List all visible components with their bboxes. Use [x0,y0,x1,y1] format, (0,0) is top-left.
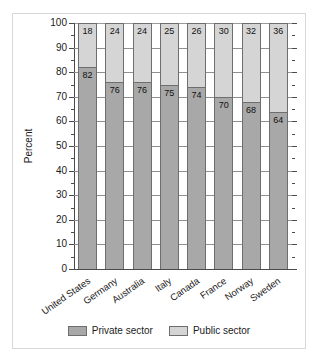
x-tick-label-cell: Norway [238,271,265,331]
bar-group[interactable]: 2476 [101,23,128,269]
y-tick-label: 10 [56,239,67,249]
y-tick-label: 90 [56,43,67,53]
legend-item-private-sector[interactable]: Private sector [68,326,153,336]
bar-value-label-public-sector: 32 [243,27,260,36]
x-tick-label-cell: Canada [183,271,210,331]
x-axis-labels: United StatesGermanyAustraliaItalyCanada… [74,271,292,331]
bar-value-label-private-sector: 76 [134,86,151,95]
y-tick-label: 20 [56,215,67,225]
bar-value-label-public-sector: 18 [79,27,96,36]
bar-group[interactable]: 1882 [74,23,101,269]
y-tick-major-right [292,48,297,49]
bar-segment-private-sector[interactable]: 82 [78,67,97,269]
bar-group[interactable]: 2476 [129,23,156,269]
bar-value-label-public-sector: 30 [215,27,232,36]
bar-segment-public-sector[interactable]: 25 [160,23,179,85]
y-tick-minor-right [292,232,295,233]
legend-label: Public sector [193,326,250,336]
plot-area: 0102030405060708090100 18822476247625752… [74,23,292,269]
bar-stack: 3664 [269,23,288,269]
bar-segment-private-sector[interactable]: 64 [269,112,288,269]
y-tick-label: 100 [50,18,67,28]
y-tick-major-right [292,244,297,245]
bar-segment-private-sector[interactable]: 74 [187,87,206,269]
y-tick-minor-right [292,183,295,184]
bar-value-label-public-sector: 25 [161,27,178,36]
bar-segment-public-sector[interactable]: 32 [242,23,261,102]
legend-swatch-icon [169,326,188,336]
bar-group[interactable]: 2575 [156,23,183,269]
bar-value-label-private-sector: 68 [243,106,260,115]
y-tick-minor-right [292,208,295,209]
y-tick-minor-right [292,85,295,86]
bar-value-label-public-sector: 24 [106,27,123,36]
x-tick-label-cell: Australia [129,271,156,331]
y-tick-major-right [292,121,297,122]
bar-segment-private-sector[interactable]: 76 [105,82,124,269]
bar-segment-private-sector[interactable]: 75 [160,85,179,270]
bar-value-label-public-sector: 36 [270,27,287,36]
bar-stack: 1882 [78,23,97,269]
y-tick-label: 40 [56,166,67,176]
bars-layer: 18822476247625752674307032683664 [74,23,292,269]
bar-stack: 3268 [242,23,261,269]
legend-label: Private sector [92,326,153,336]
x-tick-label-cell: France [210,271,237,331]
bar-group[interactable]: 2674 [183,23,210,269]
y-tick-major-right [292,171,297,172]
y-tick-label: 60 [56,116,67,126]
y-tick-major-right [292,23,297,24]
y-tick-minor-right [292,35,295,36]
bar-segment-public-sector[interactable]: 24 [105,23,124,82]
y-tick-major-right [292,146,297,147]
x-tick-label-cell: Sweden [265,271,292,331]
legend-item-public-sector[interactable]: Public sector [169,326,250,336]
bar-stack: 3070 [214,23,233,269]
bar-value-label-private-sector: 82 [79,71,96,80]
y-tick-label: 80 [56,67,67,77]
bar-stack: 2476 [133,23,152,269]
bar-segment-private-sector[interactable]: 76 [133,82,152,269]
bar-stack: 2575 [160,23,179,269]
bar-stack: 2674 [187,23,206,269]
y-tick-major-right [292,195,297,196]
y-tick-minor-right [292,109,295,110]
bar-value-label-private-sector: 74 [188,91,205,100]
y-tick-major-right [292,97,297,98]
legend-swatch-icon [68,326,87,336]
bar-segment-public-sector[interactable]: 36 [269,23,288,112]
bar-stack: 2476 [105,23,124,269]
bar-value-label-private-sector: 64 [270,116,287,125]
bar-segment-public-sector[interactable]: 24 [133,23,152,82]
y-tick-minor-right [292,257,295,258]
chart-legend: Private sectorPublic sector [13,326,305,336]
x-tick-label-cell: Italy [156,271,183,331]
bar-group[interactable]: 3070 [210,23,237,269]
bar-group[interactable]: 3268 [238,23,265,269]
bar-segment-public-sector[interactable]: 30 [214,23,233,97]
y-tick-label: 30 [56,190,67,200]
bar-value-label-private-sector: 70 [215,101,232,110]
bar-value-label-private-sector: 76 [106,86,123,95]
y-tick-label: 50 [56,141,67,151]
y-tick-minor-right [292,158,295,159]
bar-segment-private-sector[interactable]: 70 [214,97,233,269]
bar-group[interactable]: 3664 [265,23,292,269]
bar-value-label-private-sector: 75 [161,89,178,98]
y-tick-minor-right [292,60,295,61]
bar-segment-private-sector[interactable]: 68 [242,102,261,269]
y-tick-major-right [292,72,297,73]
bar-value-label-public-sector: 26 [188,27,205,36]
bar-segment-public-sector[interactable]: 18 [78,23,97,67]
y-axis-title: Percent [24,129,34,163]
y-tick-major [69,269,74,270]
y-tick-label: 70 [56,92,67,102]
chart-figure: Percent 0102030405060708090100 188224762… [12,13,306,349]
y-tick-minor-right [292,134,295,135]
y-tick-label: 0 [61,264,67,274]
bar-segment-public-sector[interactable]: 26 [187,23,206,87]
y-tick-major-right [292,220,297,221]
bar-value-label-public-sector: 24 [134,27,151,36]
